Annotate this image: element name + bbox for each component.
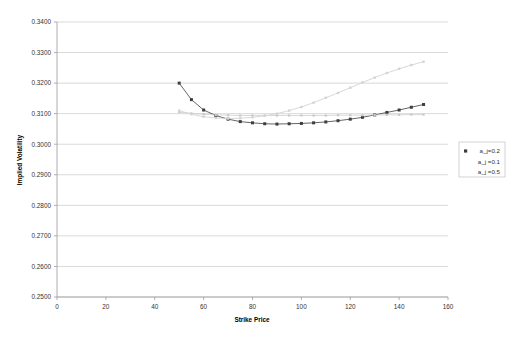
x-axis-tick-label: 120 — [345, 303, 356, 310]
data-point-marker — [386, 114, 388, 116]
x-axis-tick-label: 140 — [394, 303, 405, 310]
data-point-marker — [264, 115, 266, 117]
data-point-marker — [361, 114, 363, 116]
data-point-marker — [227, 114, 229, 116]
legend-marker — [464, 149, 467, 152]
data-point-marker — [325, 97, 327, 99]
data-point-marker — [337, 119, 340, 122]
data-point-marker — [361, 81, 363, 83]
y-axis-tick-label: 0.3400 — [31, 18, 51, 25]
data-point-marker — [325, 114, 327, 116]
data-point-marker — [275, 123, 278, 126]
data-point-marker — [385, 111, 388, 114]
x-axis-tick-label: 60 — [200, 303, 208, 310]
data-point-marker — [227, 117, 229, 119]
data-point-marker — [337, 114, 339, 116]
data-point-marker — [190, 113, 192, 115]
data-point-marker — [300, 122, 303, 125]
data-point-marker — [288, 109, 290, 111]
data-point-marker — [386, 72, 388, 74]
data-point-marker — [422, 61, 424, 63]
data-point-marker — [312, 121, 315, 124]
data-point-marker — [178, 82, 181, 85]
data-point-marker — [337, 92, 339, 94]
y-axis-tick-label: 0.2800 — [31, 202, 51, 209]
y-axis-title: Implied Volatility — [16, 134, 24, 185]
data-point-marker — [203, 113, 205, 115]
y-axis-tick-label: 0.3100 — [31, 110, 51, 117]
x-axis-tick-label: 80 — [249, 303, 257, 310]
data-point-marker — [373, 76, 375, 78]
data-point-marker — [288, 114, 290, 116]
data-point-marker — [312, 101, 314, 103]
data-point-marker — [215, 114, 217, 116]
data-point-marker — [374, 114, 376, 116]
data-point-marker — [349, 118, 352, 121]
data-point-marker — [410, 106, 413, 109]
chart-container: 0.25000.26000.27000.28000.29000.30000.31… — [0, 0, 523, 340]
data-point-marker — [239, 117, 241, 119]
data-point-marker — [276, 112, 278, 114]
data-point-marker — [300, 114, 302, 116]
data-point-marker — [324, 120, 327, 123]
data-point-marker — [398, 109, 401, 112]
data-point-marker — [239, 114, 241, 116]
data-point-marker — [263, 122, 266, 125]
data-point-marker — [349, 86, 351, 88]
data-point-marker — [202, 109, 205, 112]
y-axis-tick-label: 0.2600 — [31, 263, 51, 270]
chart-legend: a_j=0.2a_j =0.1a_j =0.5 — [459, 142, 505, 177]
x-axis-tick-label: 40 — [151, 303, 159, 310]
y-axis-tick-label: 0.3000 — [31, 141, 51, 148]
data-point-marker — [300, 106, 302, 108]
data-point-marker — [410, 113, 412, 115]
y-axis-tick-label: 0.3300 — [31, 49, 51, 56]
y-axis-tick-label: 0.2500 — [31, 293, 51, 300]
data-point-marker — [398, 114, 400, 116]
data-point-marker — [312, 114, 314, 116]
data-point-marker — [422, 103, 425, 106]
legend-label: a_j =0.5 — [478, 168, 501, 175]
x-axis-tick-label: 100 — [296, 303, 307, 310]
data-point-marker — [239, 120, 242, 123]
data-point-marker — [190, 98, 193, 101]
legend-label: a_j =0.1 — [478, 158, 501, 165]
data-point-marker — [398, 68, 400, 70]
data-point-marker — [349, 114, 351, 116]
x-axis-tick-label: 20 — [102, 303, 110, 310]
legend-label: a_j=0.2 — [480, 147, 501, 154]
data-point-marker — [202, 116, 204, 118]
data-point-marker — [178, 109, 180, 111]
data-point-marker — [251, 116, 253, 118]
x-axis-tick-label: 0 — [55, 303, 59, 310]
implied-volatility-chart: 0.25000.26000.27000.28000.29000.30000.31… — [0, 0, 523, 340]
y-axis-tick-label: 0.3200 — [31, 79, 51, 86]
y-axis-tick-label: 0.2900 — [31, 171, 51, 178]
chart-background — [0, 0, 523, 340]
data-point-marker — [288, 122, 291, 125]
data-point-marker — [422, 113, 424, 115]
data-point-marker — [215, 117, 217, 119]
x-axis-title: Strike Price — [234, 316, 270, 323]
y-axis-tick-label: 0.2700 — [31, 232, 51, 239]
x-axis-tick-label: 160 — [443, 303, 454, 310]
data-point-marker — [251, 121, 254, 124]
data-point-marker — [410, 64, 412, 66]
